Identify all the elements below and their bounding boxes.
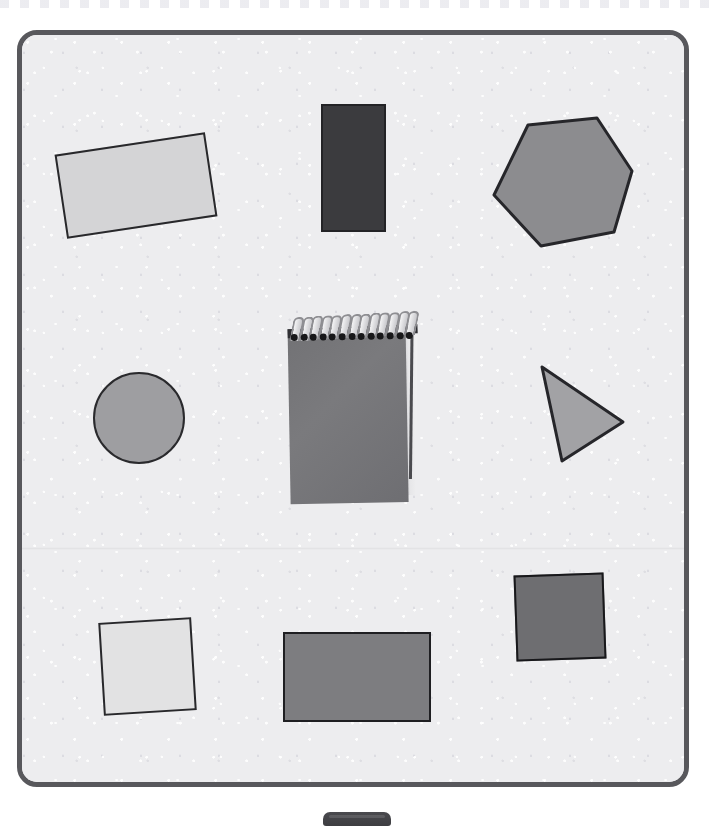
notepad-coil-hole xyxy=(310,334,317,341)
bottom-tab[interactable] xyxy=(323,812,391,826)
notepad-spiral-binding xyxy=(289,315,417,343)
notepad-cover xyxy=(288,327,409,504)
board-fold-seam xyxy=(22,547,684,550)
hexagon-path xyxy=(494,118,632,246)
notepad-coil-hole xyxy=(406,332,413,339)
shape-rectangle-dark[interactable] xyxy=(321,104,386,232)
shape-square-light[interactable] xyxy=(98,617,197,716)
notepad-coil-hole xyxy=(300,334,307,341)
notepad-coil-hole xyxy=(329,333,336,340)
shape-circle[interactable] xyxy=(93,372,185,464)
notepad-coil-hole xyxy=(319,333,326,340)
hexagon-svg xyxy=(491,118,633,246)
notepad-coil-hole xyxy=(339,333,346,340)
shape-hexagon[interactable] xyxy=(491,118,633,246)
notepad-coil-hole xyxy=(377,332,384,339)
shape-square-dark[interactable] xyxy=(514,572,607,661)
notepad-coil-hole xyxy=(348,333,355,340)
notepad-coil-hole xyxy=(291,334,298,341)
shape-rectangle-mid[interactable] xyxy=(283,632,431,722)
triangle-path xyxy=(542,367,623,461)
triangle-svg xyxy=(538,364,624,462)
scene-canvas xyxy=(0,0,712,832)
notepad-coil-hole xyxy=(396,332,403,339)
notepad-coil-hole xyxy=(367,333,374,340)
top-dashed-strip xyxy=(0,0,712,8)
shape-triangle[interactable] xyxy=(538,364,624,462)
notepad-coil-hole xyxy=(387,332,394,339)
notepad-coil-hole xyxy=(358,333,365,340)
spiral-notepad[interactable] xyxy=(287,317,422,504)
bottom-tab-highlight xyxy=(329,815,385,818)
